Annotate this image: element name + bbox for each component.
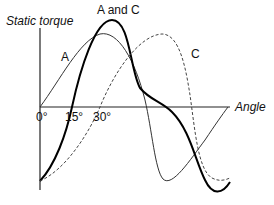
tick-label-30: 30° (93, 111, 111, 123)
x-axis-label: Angle (235, 101, 266, 113)
tick-label-15: 15° (65, 111, 83, 123)
tick-label-0: 0° (36, 111, 47, 123)
curve-label-c: C (191, 48, 200, 60)
torque-diagram (0, 0, 274, 205)
curve-a-and-c (40, 20, 230, 192)
y-axis-label: Static torque (6, 15, 73, 27)
curve-label-a: A (61, 51, 69, 63)
curve-label-a-and-c: A and C (97, 4, 140, 16)
